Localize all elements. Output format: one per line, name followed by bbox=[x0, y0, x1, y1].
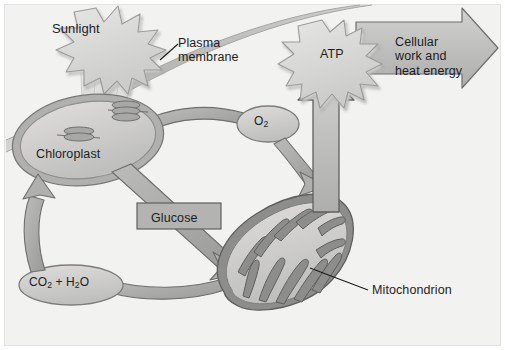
chloroplast-label: Chloroplast bbox=[36, 147, 100, 161]
sunlight-label: Sunlight bbox=[52, 22, 100, 37]
co2-water-label: CO2 + H2O bbox=[29, 276, 89, 291]
chloroplast-to-oxygen-band bbox=[150, 107, 244, 129]
mitochondrion-to-co2-arrow bbox=[108, 278, 228, 299]
cellular-work-label: Cellular work and heat energy bbox=[395, 35, 462, 78]
oxygen-atom: O bbox=[80, 275, 89, 289]
glucose-label: Glucose bbox=[151, 211, 198, 225]
co2-symbol: CO bbox=[29, 275, 47, 289]
atp-label: ATP bbox=[320, 47, 344, 61]
plus-h: + H bbox=[52, 275, 75, 289]
oxygen-subscript: 2 bbox=[263, 119, 268, 129]
plasma-membrane-label: Plasma membrane bbox=[178, 36, 239, 65]
oxygen-label: O2 bbox=[254, 115, 268, 130]
mitochondrion-label: Mitochondrion bbox=[372, 283, 452, 297]
diagram-canvas: Sunlight Plasma membrane Chloroplast O2 … bbox=[0, 0, 505, 350]
co2-to-chloroplast-arrow bbox=[23, 174, 55, 272]
